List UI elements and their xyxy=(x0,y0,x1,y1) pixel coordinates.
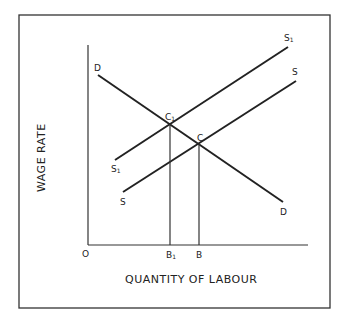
demand-end-label: D xyxy=(280,207,287,217)
tick-b-label: B xyxy=(196,250,202,260)
s-start-label: S xyxy=(120,197,126,207)
labour-market-diagram: D D S1 S1 S S C1 C O B1 B QUANTITY OF LA… xyxy=(0,0,346,320)
point-c1-label: C1 xyxy=(165,112,175,122)
y-axis-label: WAGE RATE xyxy=(35,123,48,192)
demand-start-label: D xyxy=(94,63,101,73)
s-end-label: S xyxy=(292,67,298,77)
s1-end-label: S1 xyxy=(284,33,294,43)
point-c-label: C xyxy=(197,133,203,143)
origin-label: O xyxy=(82,249,89,259)
tick-b1-label: B1 xyxy=(166,250,176,260)
diagram-frame xyxy=(19,15,330,308)
x-axis-label: QUANTITY OF LABOUR xyxy=(125,273,257,286)
demand-curve xyxy=(98,75,283,202)
s1-start-label: S1 xyxy=(111,164,121,174)
